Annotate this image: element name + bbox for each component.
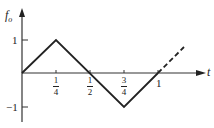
frac-num: 1: [88, 76, 93, 85]
frac-num: 3: [122, 76, 127, 85]
y-tick-label-neg1: −1: [6, 102, 18, 113]
y-axis-label: fo: [5, 9, 12, 24]
x-tick-label-half: 1 2: [87, 76, 93, 97]
frac-den: 4: [122, 88, 127, 97]
x-tick-label-one: 1: [156, 78, 162, 89]
y-tick-label-1: 1: [12, 35, 18, 46]
x-tick-label-quarter: 1 4: [53, 76, 59, 97]
frac-den: 2: [88, 88, 93, 97]
y-axis-label-sub: o: [8, 15, 12, 24]
chart-canvas: [0, 0, 214, 128]
waveform-dashed: [158, 47, 184, 73]
x-axis-arrow-icon: [196, 70, 206, 76]
frac-den: 4: [54, 88, 59, 97]
frac-num: 1: [54, 76, 59, 85]
x-axis-label: t: [207, 66, 210, 78]
x-tick-label-three-quarter: 3 4: [121, 76, 127, 97]
y-axis-arrow-icon: [19, 8, 25, 17]
